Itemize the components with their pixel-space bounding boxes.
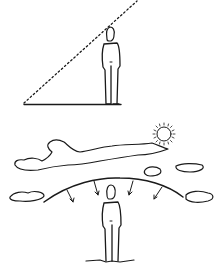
person-figure-icon [102,27,120,104]
sightline-drawing [0,0,221,115]
sky-dome-drawing [0,115,221,276]
sun-icon [153,123,175,145]
sightline-panel [0,0,221,115]
ground-shadow [86,260,134,262]
cloud-icon [10,140,213,202]
person-figure-icon [102,185,121,261]
sky-dome-panel [0,115,221,276]
